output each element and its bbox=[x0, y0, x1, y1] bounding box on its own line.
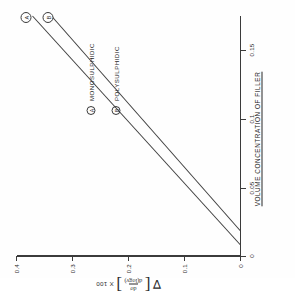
y-tick-label-4: 0.4 bbox=[13, 264, 20, 280]
series-line-polysulphidic bbox=[51, 16, 240, 231]
bracket-close: ] bbox=[116, 276, 122, 293]
legend-marker-a-icon: A bbox=[86, 106, 95, 115]
legend-marker-b-icon: B bbox=[111, 106, 120, 115]
legend: A MONOSULPHIDIC B POLYSULPHIDIC bbox=[86, 43, 120, 115]
curve-tag-b-icon: B bbox=[42, 12, 53, 23]
x-axis-title: VOLUME CONCENTRATION OF FILLER bbox=[253, 72, 260, 207]
x-tick-label-3: 0.15 bbox=[247, 44, 254, 57]
legend-label-polysulphidic: POLYSULPHIDIC bbox=[112, 46, 119, 101]
fraction-numerator: dσ bbox=[129, 284, 137, 292]
legend-item-monosulphidic: A MONOSULPHIDIC bbox=[86, 43, 95, 115]
y-tick-label-1: 0.1 bbox=[181, 264, 188, 280]
legend-label-monosulphidic: MONOSULPHIDIC bbox=[87, 43, 94, 101]
legend-item-polysulphidic: B POLYSULPHIDIC bbox=[111, 43, 120, 115]
y-axis-multiplier: X 100 bbox=[96, 281, 114, 288]
y-axis-title: ∇ [ dσ d(logν) ] X 100 bbox=[96, 276, 161, 293]
series-line-monosulphidic bbox=[32, 16, 240, 245]
fraction-denominator: d(logν) bbox=[124, 276, 142, 283]
bracket-open: [ bbox=[144, 276, 150, 293]
nabla-icon: ∇ bbox=[152, 278, 160, 290]
y-tick-label-3: 0.3 bbox=[69, 264, 76, 280]
derivative-fraction: dσ d(logν) bbox=[124, 276, 142, 291]
curve-tag-a-icon: A bbox=[20, 12, 31, 23]
y-tick-label-0: 0 bbox=[237, 264, 244, 276]
x-tick-label-0: 0 bbox=[247, 254, 254, 258]
